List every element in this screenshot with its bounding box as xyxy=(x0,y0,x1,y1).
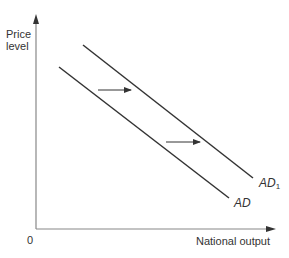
ad-shift-diagram: Price level National output 0 AD AD1 xyxy=(0,0,289,258)
x-axis xyxy=(36,226,276,232)
ad1-label: AD1 xyxy=(258,176,281,191)
y-axis xyxy=(33,14,39,229)
ad-label: AD xyxy=(233,196,251,210)
x-axis-label: National output xyxy=(196,235,270,247)
ad-curve xyxy=(59,67,229,198)
origin-label: 0 xyxy=(27,234,33,246)
y-axis-label-line2: level xyxy=(6,40,29,52)
y-axis-arrow-icon xyxy=(33,14,39,24)
y-axis-label-line1: Price xyxy=(6,28,31,40)
x-axis-arrow-icon xyxy=(266,226,276,232)
ad1-curve xyxy=(83,45,253,178)
